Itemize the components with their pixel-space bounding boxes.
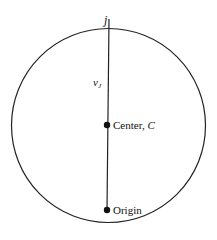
top-point-label: j — [102, 13, 108, 27]
origin-point — [104, 207, 110, 213]
center-label: Center, C — [113, 119, 155, 131]
diagram-canvas: j vJ Center, C Origin — [0, 0, 217, 240]
radius-line — [107, 19, 109, 210]
vector-label: vJ — [93, 76, 102, 90]
center-point — [104, 122, 110, 128]
origin-label: Origin — [113, 204, 142, 216]
vector-subscript: J — [98, 82, 102, 90]
